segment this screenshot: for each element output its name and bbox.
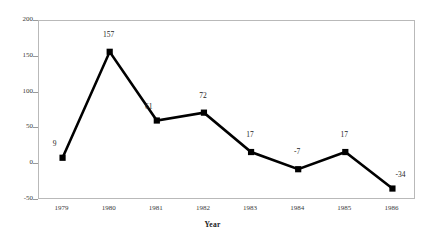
plot-area	[38, 20, 415, 199]
y-tick-label: 100	[23, 88, 34, 95]
x-tick-label: 1985	[337, 204, 351, 212]
data-point-marker	[248, 149, 254, 155]
data-point-marker	[295, 166, 301, 172]
x-tick-label: 1979	[55, 204, 69, 212]
data-point-marker	[107, 49, 113, 55]
data-point-label: -34	[395, 171, 405, 179]
x-tick-label: 1984	[290, 204, 304, 212]
data-point-marker	[389, 185, 395, 191]
y-tick-label: 150	[23, 52, 34, 59]
data-point-label: 61	[145, 103, 153, 111]
chart-figure: 200150100500-50 197919801981198219831984…	[0, 0, 425, 238]
data-point-label: 157	[103, 31, 114, 39]
data-point-label: 9	[53, 140, 57, 148]
y-tick-label: 200	[23, 16, 34, 23]
y-tick-label: -50	[24, 195, 33, 202]
series-line	[63, 52, 393, 189]
x-axis-title: Year	[0, 220, 425, 229]
data-point-label: 17	[246, 131, 254, 139]
data-point-marker	[154, 117, 160, 123]
y-tick-mark	[33, 199, 38, 200]
data-point-label: -7	[294, 148, 300, 156]
y-tick-label: 0	[30, 159, 34, 166]
line-series	[39, 21, 416, 200]
x-tick-label: 1980	[102, 204, 116, 212]
data-point-marker	[342, 149, 348, 155]
data-point-label: 17	[341, 131, 349, 139]
data-point-label: 72	[199, 92, 207, 100]
data-point-marker	[201, 110, 207, 116]
x-tick-label: 1983	[243, 204, 257, 212]
x-tick-label: 1986	[384, 204, 398, 212]
y-tick-label: 50	[26, 123, 33, 130]
x-tick-label: 1981	[149, 204, 163, 212]
x-tick-label: 1982	[196, 204, 210, 212]
data-point-marker	[59, 155, 65, 161]
